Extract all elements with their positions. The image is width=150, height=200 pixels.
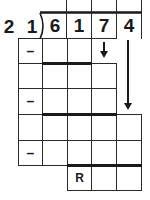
- divisor-digit-tens: 2: [2, 17, 16, 36]
- work-cell-r3c4[interactable]: [91, 63, 117, 89]
- work-cell-r6c4[interactable]: [91, 140, 117, 166]
- work-cell-r5c5[interactable]: [116, 114, 142, 141]
- work-cell-r7c3[interactable]: [116, 165, 142, 191]
- work-cell-r6c2[interactable]: [42, 140, 68, 166]
- work-cell-r6c5[interactable]: [116, 140, 142, 166]
- work-cell-r4c3[interactable]: [67, 88, 92, 115]
- dividend-digit-2: 1: [68, 16, 90, 35]
- subtraction-line-2: [42, 113, 117, 116]
- minus-sign: –: [19, 146, 42, 160]
- subtraction-line-3: [67, 164, 142, 167]
- work-cell-r5c3[interactable]: [67, 114, 92, 141]
- work-cell-r4c4[interactable]: [91, 88, 117, 115]
- work-cell-r6c3[interactable]: [67, 140, 92, 166]
- dividend-digit-4: 4: [118, 16, 140, 35]
- work-cell-r2c3[interactable]: [67, 38, 92, 64]
- minus-sign: –: [19, 94, 42, 108]
- work-cell-r3c1[interactable]: [18, 63, 43, 89]
- work-cell-r4c2[interactable]: [42, 88, 68, 115]
- long-division-diagram: 2 1 6 1 7 4 – – – R: [0, 0, 150, 200]
- minus-sign: –: [19, 44, 42, 58]
- work-cell-r5c2[interactable]: [42, 114, 68, 141]
- work-cell-r2c2[interactable]: [42, 38, 68, 64]
- dividend-digit-3: 7: [93, 16, 115, 35]
- dividend-divider: [91, 12, 92, 39]
- work-cell-r7c2[interactable]: [91, 165, 117, 191]
- dividend-digit-1: 6: [44, 16, 66, 35]
- work-cell-r5c1[interactable]: [18, 114, 43, 141]
- dividend-divider: [66, 12, 67, 39]
- dividend-divider: [116, 12, 117, 39]
- remainder-label: R: [67, 172, 92, 184]
- work-cell-r3c3[interactable]: [67, 63, 92, 89]
- dividend-divider: [141, 12, 142, 39]
- subtraction-line-1: [42, 62, 92, 65]
- work-cell-r3c2[interactable]: [42, 63, 68, 89]
- work-cell-r5c4[interactable]: [91, 114, 117, 141]
